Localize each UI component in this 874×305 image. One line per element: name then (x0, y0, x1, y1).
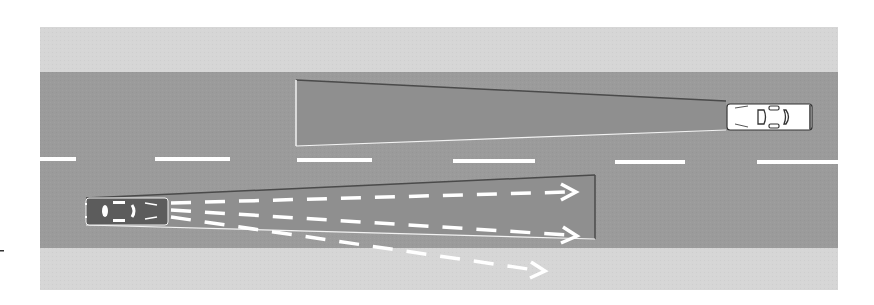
lane-dash (453, 159, 535, 163)
margin-tick-mark (0, 250, 4, 252)
lane-dash (40, 157, 76, 161)
oncoming-car (727, 104, 812, 130)
lane-dash (155, 157, 230, 161)
lane-dash (757, 160, 838, 164)
own-car (85, 198, 168, 225)
lane-dash (615, 160, 685, 164)
road-diagram (0, 0, 874, 305)
lane-dash (297, 158, 372, 162)
